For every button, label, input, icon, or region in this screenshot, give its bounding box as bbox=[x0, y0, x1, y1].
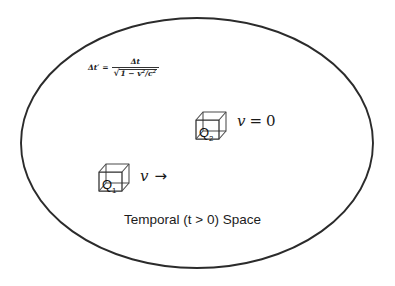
diagram-canvas: Δt′ = Δt √ 1 − v2/c2 Q2 v=0 Q1 v→ Tempor… bbox=[0, 0, 395, 286]
diagram-vector-layer bbox=[0, 0, 395, 286]
formula-denominator: √ 1 − v2/c2 bbox=[112, 68, 159, 78]
cube-q2-label-base: Q bbox=[199, 125, 209, 140]
temporal-space-caption: Temporal (t > 0) Space bbox=[124, 213, 261, 227]
velocity-q1-symbol: v bbox=[140, 167, 148, 185]
radicand-leading-term: 1 − bbox=[120, 69, 137, 78]
velocity-label-q2: v=0 bbox=[237, 114, 276, 129]
formula-radical: √ 1 − v2/c2 bbox=[114, 69, 157, 78]
radical-sign-icon: √ bbox=[114, 68, 120, 77]
velocity-q2-operator: = bbox=[249, 112, 262, 130]
formula-numerator: Δt bbox=[127, 58, 144, 67]
formula-fraction: Δt √ 1 − v2/c2 bbox=[112, 58, 159, 78]
temporal-space-ellipse bbox=[21, 18, 373, 268]
formula-radicand: 1 − v2/c2 bbox=[119, 69, 157, 78]
cube-q1-label-subscript: 1 bbox=[112, 186, 116, 195]
cube-q1-label: Q1 bbox=[102, 178, 116, 194]
cube-q2-label: Q2 bbox=[199, 126, 213, 142]
velocity-q2-value: 0 bbox=[266, 112, 276, 130]
velocity-label-q1: v→ bbox=[140, 169, 167, 184]
formula-lhs: Δt′ bbox=[88, 64, 99, 72]
formula-equals-sign: = bbox=[102, 64, 108, 72]
time-dilation-formula: Δt′ = Δt √ 1 − v2/c2 bbox=[88, 58, 159, 78]
cube-q1-label-base: Q bbox=[102, 177, 112, 192]
cube-q2-label-subscript: 2 bbox=[209, 134, 213, 143]
velocity-right-arrow-icon: → bbox=[154, 167, 167, 185]
radicand-c-exponent: 2 bbox=[152, 67, 156, 73]
velocity-q2-symbol: v bbox=[237, 112, 245, 130]
